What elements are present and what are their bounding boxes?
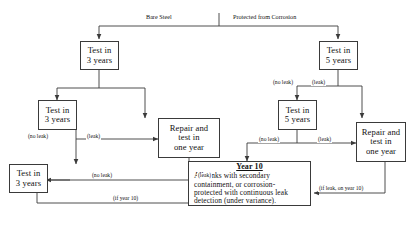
edge-label-bare-leak-2: (leak) [197, 173, 212, 179]
edge-label-bare-noleak-2: (no leak) [91, 173, 113, 179]
node-line: 5 years [285, 115, 310, 124]
node-bare-repair[interactable]: Repair and test in one year [158, 118, 220, 158]
edge-label-prot-noleak-1: (no leak) [272, 80, 294, 86]
node-bare-test-3b[interactable]: Test in 3 years [38, 100, 77, 130]
edge-label-prot-leak-2: (leak) [317, 137, 332, 143]
node-prot-test-5b[interactable]: Test in 5 years [278, 100, 317, 130]
node-line: one year [366, 147, 396, 156]
node-year-10[interactable]: Year 10 All tanks with secondary contain… [188, 161, 311, 206]
node-bare-test-3c[interactable]: Test in 3 years [9, 164, 48, 193]
node-line: 5 years [326, 56, 351, 65]
node-bare-test-3a[interactable]: Test in 3 years [80, 41, 119, 70]
edge-label-prot-if-leak-on-year-10: (if leak, on year 10) [318, 186, 364, 192]
node-line: 3 years [87, 56, 112, 65]
branch-label-bare-steel: Bare Steel [145, 14, 173, 20]
edge-label-prot-leak-1: (leak) [311, 80, 326, 86]
node-line: 3 years [16, 179, 41, 188]
year-10-line: detection (under variance). [194, 197, 308, 205]
flowchart-canvas: Bare Steel Protected from Corrosion Test… [0, 0, 411, 229]
node-line: 3 years [45, 115, 70, 124]
node-line: one year [174, 143, 204, 152]
edge-label-bare-noleak-1: (no leak) [27, 134, 49, 140]
edge-label-bare-leak-1: (leak) [86, 134, 101, 140]
branch-label-protected-from-corrosion: Protected from Corrosion [232, 14, 297, 20]
node-prot-repair[interactable]: Repair and test in one year [356, 122, 406, 162]
node-prot-test-5a[interactable]: Test in 5 years [319, 41, 358, 70]
edge-label-bare-if-year-10: (if year 10) [112, 196, 139, 202]
edge-label-prot-noleak-2: (no leak) [258, 137, 280, 143]
